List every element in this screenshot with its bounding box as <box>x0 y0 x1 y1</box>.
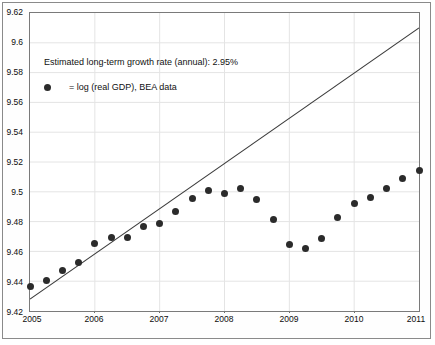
data-point <box>75 259 82 266</box>
data-point <box>156 220 163 227</box>
data-point <box>253 196 260 203</box>
x-tick-label-2005: 2005 <box>23 314 42 324</box>
y-tick-label-9-58: 9.58 <box>6 67 23 77</box>
data-point <box>189 195 196 202</box>
x-tick-label-2009: 2009 <box>280 314 299 324</box>
data-point <box>302 245 309 252</box>
data-point <box>351 200 358 207</box>
figure-canvas: 9.62 9.6 9.58 9.56 9.54 9.52 9.5 9.48 9.… <box>0 0 435 345</box>
data-point <box>399 175 406 182</box>
x-tick-label-2011: 2011 <box>407 314 425 324</box>
growth-rate-annotation: Estimated long-term growth rate (annual)… <box>44 57 238 67</box>
data-point <box>237 185 244 192</box>
y-tick-label-9-48: 9.48 <box>6 217 23 227</box>
data-point <box>334 214 341 221</box>
data-point <box>27 283 34 290</box>
legend: = log (real GDP), BEA data <box>44 82 177 92</box>
y-tick-label-9-50: 9.5 <box>11 187 23 197</box>
data-point <box>367 194 374 201</box>
filled-circle-marker-icon <box>44 84 51 91</box>
y-tick-label-9-46: 9.46 <box>6 247 23 257</box>
y-tick-label-9-54: 9.54 <box>6 127 23 137</box>
data-point <box>140 223 147 230</box>
data-point <box>221 190 228 197</box>
data-point <box>286 241 293 248</box>
data-point <box>383 185 390 192</box>
y-tick-label-9-44: 9.44 <box>6 277 23 287</box>
y-tick-label-9-56: 9.56 <box>6 97 23 107</box>
data-point <box>205 187 212 194</box>
x-tick-label-2010: 2010 <box>345 314 364 324</box>
data-point <box>59 267 66 274</box>
data-point <box>91 240 98 247</box>
y-tick-label-9-42: 9.42 <box>6 307 23 317</box>
x-tick-label-2008: 2008 <box>215 314 234 324</box>
y-tick-label-9-62: 9.62 <box>6 7 23 17</box>
data-point <box>318 235 325 242</box>
data-point <box>43 277 50 284</box>
y-tick-label-9-52: 9.52 <box>6 157 23 167</box>
data-point <box>416 167 423 174</box>
x-tick-label-2007: 2007 <box>150 314 169 324</box>
x-tick-label-2006: 2006 <box>85 314 104 324</box>
legend-label: = log (real GDP), BEA data <box>69 82 177 92</box>
data-point <box>270 216 277 223</box>
y-tick-label-9-60: 9.6 <box>11 37 23 47</box>
y-axis-labels: 9.62 9.6 9.58 9.56 9.54 9.52 9.5 9.48 9.… <box>0 0 27 345</box>
data-point <box>124 234 131 241</box>
data-point <box>172 208 179 215</box>
data-point <box>108 234 115 241</box>
